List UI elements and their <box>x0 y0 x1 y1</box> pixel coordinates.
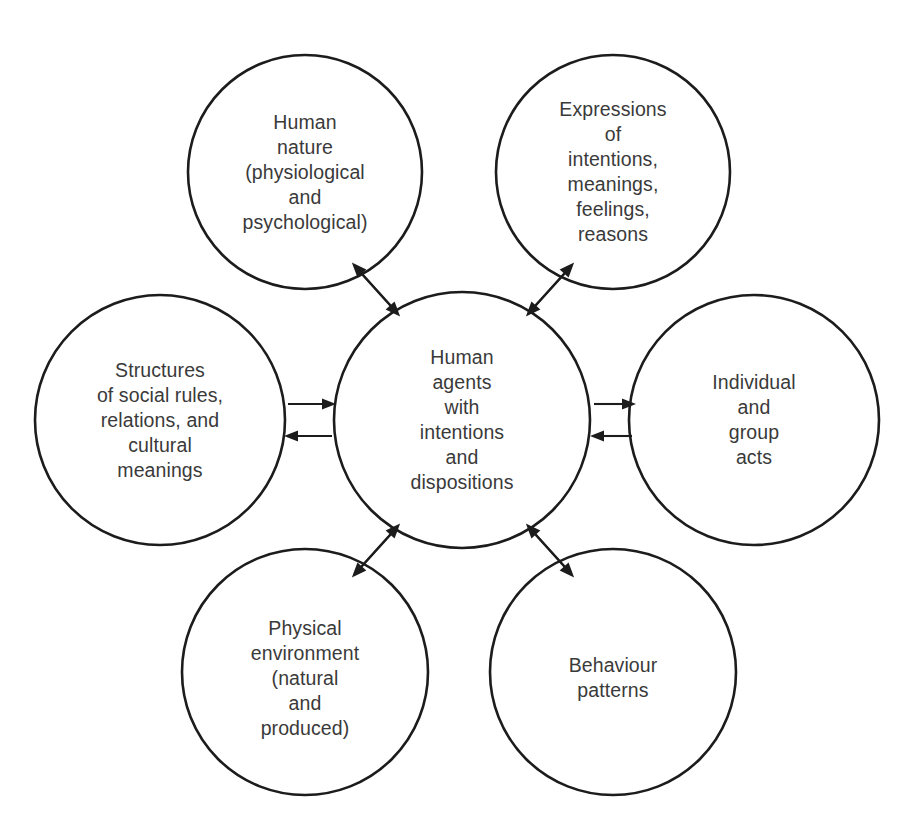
node-circle-human-agents[interactable] <box>334 292 590 548</box>
node-circle-expressions[interactable] <box>496 55 730 289</box>
diagram-canvas: Human nature (physiological and psycholo… <box>0 0 903 824</box>
node-circle-structures[interactable] <box>35 295 285 545</box>
connector-structures <box>284 399 336 442</box>
arrow-shaft-behaviour-out <box>533 531 566 568</box>
arrow-shaft-expressions-out <box>533 272 566 309</box>
node-circle-individual-group-acts[interactable] <box>629 295 879 545</box>
node-circle-human-nature[interactable] <box>188 55 422 289</box>
diagram-svg <box>0 0 903 824</box>
node-circle-behaviour-patterns[interactable] <box>490 549 736 795</box>
node-circle-physical-environment[interactable] <box>182 549 428 795</box>
node-circles-group <box>35 55 879 795</box>
arrow-head-acts-in <box>590 431 604 442</box>
arrow-shaft-nature-out <box>360 272 393 309</box>
arrow-head-structures-in <box>284 431 298 442</box>
connector-human-nature <box>347 258 404 320</box>
arrow-shaft-environment-out <box>360 531 393 568</box>
